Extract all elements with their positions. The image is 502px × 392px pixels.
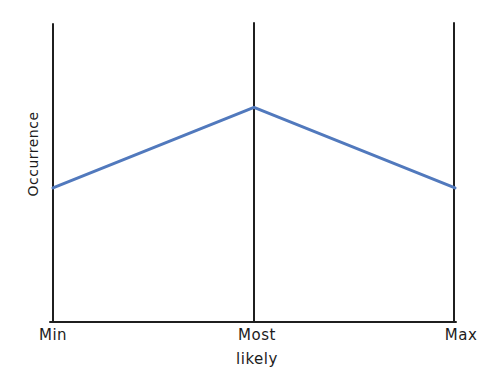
x-tick-likely: likely xyxy=(236,350,278,368)
x-tick-max: Max xyxy=(445,326,478,344)
triangular-distribution-chart: Occurrence Min Most likely Max xyxy=(0,0,502,392)
y-axis-label: Occurrence xyxy=(25,111,41,196)
x-tick-min: Min xyxy=(39,326,67,344)
x-tick-most: Most xyxy=(238,326,276,344)
